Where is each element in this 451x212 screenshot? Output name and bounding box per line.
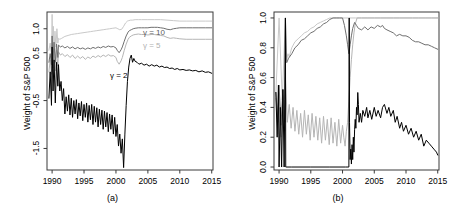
annotation-gamma10: γ = 10 bbox=[143, 28, 166, 37]
y-tick-label: -0.5 bbox=[31, 93, 41, 108]
y-tick-label: -1.5 bbox=[31, 141, 41, 156]
series-gamma5 bbox=[49, 34, 212, 74]
y-tick-label: 1.0 bbox=[31, 23, 41, 35]
x-tick-label: 2005 bbox=[138, 176, 157, 186]
y-tick-label: 0.4 bbox=[258, 101, 268, 113]
annotation-gamma5: γ = 5 bbox=[143, 41, 161, 50]
y-tick-label: 1.0 bbox=[258, 12, 268, 24]
y-tick-label: 0.5 bbox=[31, 47, 41, 59]
x-tick-label: 1995 bbox=[301, 176, 320, 186]
annotation-gamma2: γ = 2 bbox=[110, 71, 128, 80]
series-top bbox=[276, 18, 438, 100]
y-tick-label: 0.8 bbox=[258, 42, 268, 54]
x-tick-label: 1990 bbox=[43, 176, 62, 186]
series-top bbox=[49, 14, 212, 55]
y-tick-label: 0.6 bbox=[258, 72, 268, 84]
panel-caption-a: (a) bbox=[0, 193, 225, 203]
y-tick-label: 0.2 bbox=[258, 131, 268, 143]
x-tick-label: 2000 bbox=[106, 176, 125, 186]
x-tick-label: 2000 bbox=[333, 176, 352, 186]
x-tick-label: 2005 bbox=[365, 176, 384, 186]
panel-b: Weight of S&P 500 (b) 199019952000200520… bbox=[225, 0, 451, 212]
y-tick-label: 0.0 bbox=[258, 161, 268, 173]
x-tick-label: 2015 bbox=[428, 176, 447, 186]
panel-a: Weight of S&P 500 γ = 10γ = 5γ = 2 (a) 1… bbox=[0, 0, 225, 212]
x-tick-label: 1990 bbox=[270, 176, 289, 186]
x-tick-label: 1995 bbox=[75, 176, 94, 186]
x-tick-label: 2010 bbox=[170, 176, 189, 186]
figure-two-panel-line-charts: Weight of S&P 500 γ = 10γ = 5γ = 2 (a) 1… bbox=[0, 0, 451, 212]
x-tick-label: 2015 bbox=[202, 176, 221, 186]
x-tick-label: 2010 bbox=[397, 176, 416, 186]
series-gamma2 bbox=[49, 47, 212, 168]
panel-caption-b: (b) bbox=[225, 193, 451, 203]
